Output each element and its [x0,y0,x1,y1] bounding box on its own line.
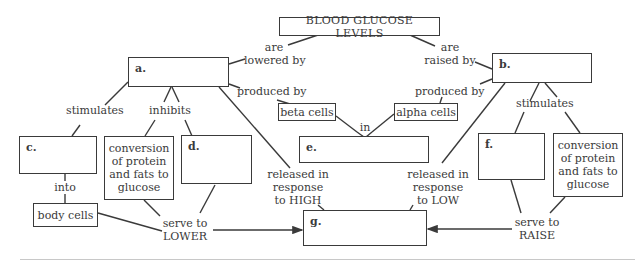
box-f[interactable]: f. [478,133,545,180]
line-inhibits-conv [145,120,155,136]
box-d[interactable]: d. [181,135,252,184]
bottom-divider [20,259,635,260]
label-are-left: are [244,41,304,54]
blood-glucose-levels-box: BLOOD GLUCOSE LEVELS [279,17,440,36]
body-cells-text: body cells [38,209,94,222]
line-b-stimulates-2 [545,83,557,97]
line-a-inhibits-2 [172,87,179,102]
title-text: BLOOD GLUCOSE LEVELS [280,14,439,40]
label-lowered-by: lowered by [244,54,304,67]
body-cells-box: body cells [33,203,98,227]
label-serve-to-raise: serve to RAISE [512,216,562,242]
line-convr-serve [550,197,565,213]
line-stimulates-c [72,125,80,136]
label-are-right: are [424,41,476,54]
box-g[interactable]: g. [303,210,427,246]
box-e[interactable]: e. [299,136,429,163]
label-released-in-low: released in [406,168,470,181]
line-a-stimulates [105,82,128,105]
box-e-letter: e. [306,141,317,154]
label-inhibits: inhibits [148,104,192,117]
conversion-left-text: conversion of protein and fats to glucos… [109,142,170,194]
beta-cells-text: beta cells [280,106,333,119]
line-body-serve [98,213,162,231]
label-serve-to-left: serve to [160,217,210,230]
label-stimulates-left: stimulates [66,104,120,117]
label-released-low: released in response to LOW [406,168,470,207]
label-serve-to-lower: serve to LOWER [160,217,210,243]
line-stimulates-f [515,112,524,133]
line-f-serve [511,180,521,213]
line-beta-in [336,116,357,132]
conversion-right-text: conversion of protein and fats to glucos… [558,139,619,191]
line-lowered-a [229,59,245,64]
box-b-letter: b. [499,58,511,71]
label-released-high: released in response to HIGH [266,168,330,207]
line-a-inhibits-1 [164,87,171,102]
box-a[interactable]: a. [128,57,229,87]
box-g-letter: g. [310,215,322,228]
line-stimulates-conv [565,112,580,133]
line-raised-b [475,62,492,69]
line-b-produced [480,79,492,84]
box-f-letter: f. [485,138,493,151]
line-conv-serve [144,200,160,216]
label-to-low: to LOW [406,194,470,207]
label-into: into [52,181,78,194]
label-raised-by: raised by [424,54,476,67]
conversion-left-box: conversion of protein and fats to glucos… [104,136,174,200]
box-b[interactable]: b. [492,53,592,83]
line-inhibits-d [185,120,192,136]
label-produced-by-right: produced by [415,85,479,98]
label-in: in [356,121,374,134]
label-are-lowered-by: are lowered by [244,41,304,67]
label-lower: LOWER [160,230,210,243]
label-to-high: to HIGH [266,194,330,207]
box-c[interactable]: c. [19,136,97,174]
label-raise: RAISE [512,229,562,242]
label-produced-by-left: produced by [237,85,301,98]
label-response-high: response [266,181,330,194]
alpha-cells-box: alpha cells [394,103,458,121]
box-c-letter: c. [26,141,37,154]
beta-cells-box: beta cells [278,103,336,121]
label-serve-to-right: serve to [512,216,562,229]
line-d-serve [200,185,215,213]
conversion-right-box: conversion of protein and fats to glucos… [553,133,623,197]
line-alpha-in [372,114,394,132]
label-are-raised-by: are raised by [424,41,476,67]
label-response-low: response [406,181,470,194]
box-a-letter: a. [135,62,146,75]
box-d-letter: d. [188,140,200,153]
label-released-in-high: released in [266,168,330,181]
alpha-cells-text: alpha cells [396,106,456,119]
label-stimulates-right: stimulates [516,97,570,110]
